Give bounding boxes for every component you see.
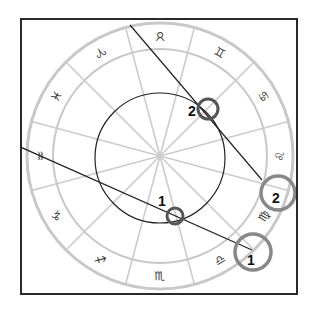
house-spokes [32,28,289,285]
sign-capricorn-icon: ♑ [47,208,65,224]
sign-sagittarius-icon: ♐ [92,251,108,269]
sign-virgo-icon: ♍ [255,208,273,224]
sign-pisces-icon: ♓ [47,88,65,104]
small-marker-1-label: 1 [158,193,166,209]
large-marker-1-label: 1 [247,252,255,268]
small-marker-2-label: 2 [188,103,196,119]
sign-aries-mirrored-icon: ♈ [92,43,109,61]
sign-scorpio-icon: ♏ [155,269,166,283]
line-2 [130,25,262,180]
large-marker-2-label: 2 [272,190,280,206]
sign-gemini-icon: ♊ [212,43,228,61]
sign-leo-icon: ♌ [273,151,287,162]
sign-aquarius-icon: ♒ [33,151,47,162]
sign-libra-icon: ♎ [212,251,228,269]
zodiac-wheel: ♉♈♓♒♑♐♏♎♍♌♋♊ 2 1 2 1 [0,0,315,312]
sign-taurus-icon: ♉ [155,29,166,43]
sign-cancer-icon: ♋ [255,88,273,104]
